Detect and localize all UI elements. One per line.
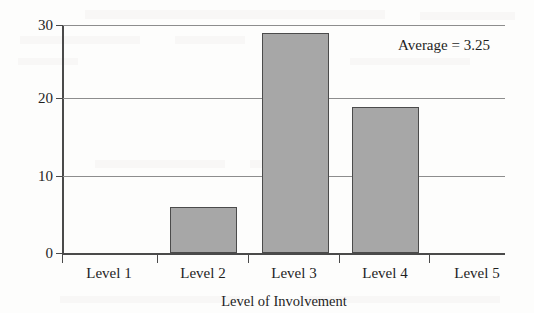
x-tick-3 — [339, 254, 340, 263]
bar-level-4 — [352, 107, 419, 253]
y-tick-label-10: 10 — [38, 169, 53, 184]
x-tick-0 — [62, 254, 63, 263]
x-tick-label-level-4: Level 4 — [362, 265, 407, 282]
y-tick-10 — [56, 176, 63, 177]
x-tick-label-level-1: Level 1 — [86, 265, 131, 282]
x-tick-label-level-3: Level 3 — [271, 265, 316, 282]
y-axis-spine — [62, 25, 64, 254]
gridline-30 — [62, 25, 505, 26]
bar-level-3 — [262, 33, 329, 253]
x-axis-baseline — [62, 253, 505, 255]
x-axis-title: Level of Involvement — [221, 293, 347, 310]
x-tick-4 — [429, 254, 430, 263]
y-tick-label-20: 20 — [38, 91, 53, 106]
y-tick-label-30: 30 — [38, 18, 53, 33]
x-tick-label-level-5: Level 5 — [454, 265, 499, 282]
scan-artifact — [85, 10, 385, 19]
scan-artifact — [420, 12, 515, 20]
x-tick-label-level-2: Level 2 — [180, 265, 225, 282]
x-tick-2 — [248, 254, 249, 263]
bar-level-2 — [170, 207, 237, 253]
x-tick-1 — [157, 254, 158, 263]
plot-area: 30 20 10 0 Level 1 Level 2 Level 3 Level… — [62, 25, 505, 253]
y-tick-label-0: 0 — [46, 246, 54, 261]
bar-chart-figure: No. of incidences Average = 3.25 30 20 1… — [0, 0, 534, 313]
y-tick-20 — [56, 98, 63, 99]
y-tick-30 — [56, 25, 63, 26]
scan-artifact — [60, 296, 240, 303]
y-axis-title: No. of incidences — [0, 0, 3, 62]
